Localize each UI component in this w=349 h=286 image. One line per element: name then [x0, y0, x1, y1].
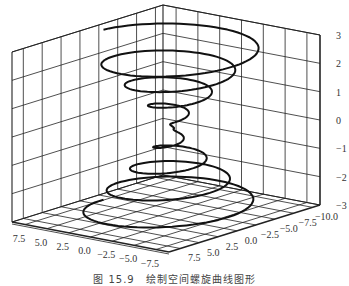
figure-caption: 图 15.9 绘制空间螺旋曲线图形 [0, 271, 349, 286]
gridlines [12, 5, 320, 254]
svg-text:0.0: 0.0 [78, 245, 91, 256]
svg-text:−7.5: −7.5 [141, 258, 159, 269]
svg-text:5.0: 5.0 [207, 247, 220, 258]
svg-text:7.5: 7.5 [188, 252, 201, 263]
svg-text:−5.0: −5.0 [280, 223, 298, 234]
svg-text:0.0: 0.0 [245, 235, 258, 246]
svg-text:1: 1 [336, 87, 341, 98]
plot-area: 7.55.02.50.0−2.5−5.0−7.5 7.55.02.50.0−2.… [0, 0, 349, 270]
svg-text:−5.0: −5.0 [119, 253, 137, 264]
svg-text:−2.5: −2.5 [261, 229, 279, 240]
svg-text:−3: −3 [336, 200, 347, 211]
svg-text:2.5: 2.5 [226, 241, 239, 252]
y-axis-tick-labels: 7.55.02.50.0−2.5−5.0−7.5−10.0 [188, 211, 338, 263]
svg-text:0: 0 [336, 115, 341, 126]
svg-text:−2.5: −2.5 [97, 249, 115, 260]
svg-text:2.5: 2.5 [56, 241, 69, 252]
svg-text:5.0: 5.0 [35, 237, 48, 248]
svg-text:−2: −2 [336, 172, 347, 183]
svg-text:7.5: 7.5 [13, 233, 26, 244]
svg-text:3: 3 [336, 30, 341, 41]
helix-3d-chart: 7.55.02.50.0−2.5−5.0−7.5 7.55.02.50.0−2.… [0, 0, 349, 286]
z-axis-tick-labels: 3210−1−2−3 [336, 30, 347, 211]
svg-text:−10.0: −10.0 [315, 211, 338, 222]
svg-text:2: 2 [336, 58, 341, 69]
svg-text:−1: −1 [336, 143, 347, 154]
